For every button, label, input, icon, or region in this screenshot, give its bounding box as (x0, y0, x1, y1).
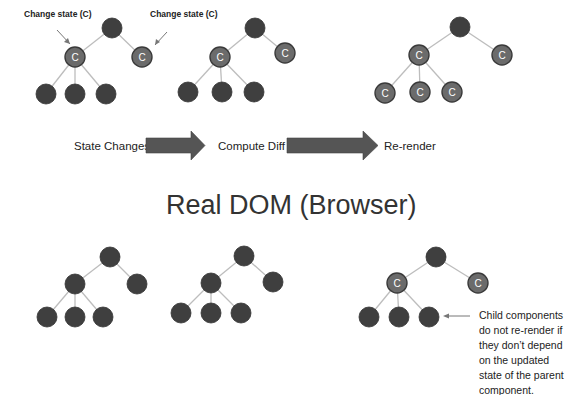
component-node (263, 272, 283, 292)
node-marker-label: C (71, 52, 78, 63)
component-node (36, 84, 56, 104)
component-node (419, 307, 439, 327)
component-node (389, 307, 409, 327)
node-marker-label: C (381, 88, 388, 99)
note-line: do not re-render if (479, 324, 563, 336)
component-node (201, 273, 221, 293)
component-node (171, 303, 191, 323)
component-node (102, 18, 122, 38)
component-node (426, 247, 446, 267)
note-line: they don’t depend (479, 339, 563, 351)
component-node (245, 18, 265, 38)
section-title: Real DOM (Browser) (166, 190, 417, 220)
note-line: Child components (479, 309, 563, 321)
component-node (359, 307, 379, 327)
node-marker-label: C (474, 278, 481, 289)
flow-step-state-changes: State Changes (74, 140, 150, 152)
flow-arrow-icon (146, 131, 205, 160)
flow-step-re-render: Re-render (384, 140, 436, 152)
component-node (231, 303, 251, 323)
node-marker-label: C (281, 48, 288, 59)
component-node (212, 82, 232, 102)
note-line: state of the parent (479, 369, 564, 381)
component-node (450, 17, 470, 37)
component-node (93, 307, 113, 327)
node-marker-label: C (416, 87, 423, 98)
node-marker-label: C (138, 52, 145, 63)
node-marker-label: C (415, 50, 422, 61)
bottom-note: Child componentsdo not re-render ifthey … (479, 309, 564, 395)
change-state-label-right: Change state (C) (150, 9, 218, 19)
component-node (100, 247, 120, 267)
component-node (65, 84, 85, 104)
note-line: component. (479, 384, 534, 395)
tree-top-diff: CC (178, 18, 295, 102)
component-node (96, 84, 116, 104)
node-marker-label: C (448, 87, 455, 98)
component-node (178, 82, 198, 102)
node-marker-label: C (498, 50, 505, 61)
component-node (65, 307, 85, 327)
component-node (65, 274, 85, 294)
component-node (201, 303, 221, 323)
node-marker-label: C (216, 52, 223, 63)
node-marker-label: C (393, 278, 400, 289)
trees-layer: CCCCCCCCCCC (36, 17, 512, 327)
flow-arrow-icon (287, 131, 378, 160)
tree-top-initial: CC (36, 18, 152, 104)
note-line: on the updated (479, 354, 549, 366)
component-node (234, 246, 254, 266)
tree-bottom-2 (171, 246, 283, 323)
tree-top-rerender: CCCCC (375, 17, 512, 103)
component-node (37, 307, 57, 327)
note-arrowhead-icon (443, 314, 449, 319)
flow-step-compute-diff: Compute Diff (218, 140, 286, 152)
tree-bottom-1 (37, 247, 147, 327)
change-state-label-left: Change state (C) (24, 9, 92, 19)
component-node (244, 82, 264, 102)
component-node (127, 274, 147, 294)
virtual-dom-diagram: CCCCCCCCCCC Change state (C) Change stat… (0, 0, 586, 395)
tree-bottom-3: CC (359, 247, 488, 327)
